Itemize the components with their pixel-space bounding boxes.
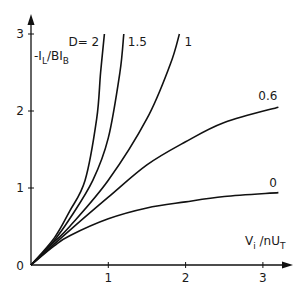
y-tick-label: 1 xyxy=(16,181,24,195)
x-tick-label: 3 xyxy=(259,271,267,285)
y-tick-label: 3 xyxy=(16,27,24,41)
curve-label: D= 2 xyxy=(68,35,99,49)
curve-d-1-5 xyxy=(31,34,124,265)
curve-label: 0.6 xyxy=(258,89,277,103)
curve-label: 1 xyxy=(184,35,192,49)
curve-d-2 xyxy=(31,34,104,265)
x-tick-label: 2 xyxy=(182,271,190,285)
x-tick-label: 1 xyxy=(104,271,112,285)
curves xyxy=(31,34,278,265)
y-tick-label: 2 xyxy=(16,104,24,118)
curve-label: 1.5 xyxy=(128,35,147,49)
curve-d-0-6 xyxy=(31,107,278,265)
y-axis-label: -IL/BIB xyxy=(34,49,69,66)
chart: 123123 D= 21.510.60 0 -IL/BIB Vi /nUT xyxy=(0,0,306,293)
origin-label: 0 xyxy=(16,259,24,273)
axes xyxy=(28,14,294,269)
x-axis-label: Vi /nUT xyxy=(245,234,286,251)
y-axis-arrow-icon xyxy=(28,14,35,25)
curve-label: 0 xyxy=(269,176,277,190)
x-axis-arrow-icon xyxy=(282,262,293,269)
